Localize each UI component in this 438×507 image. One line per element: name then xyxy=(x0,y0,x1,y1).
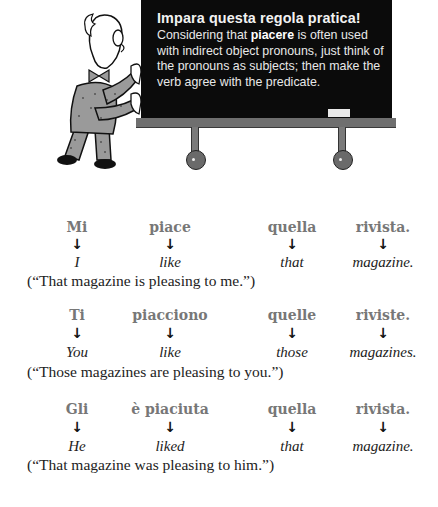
example-1-translation: (“That magazine is pleasing to me.”) xyxy=(27,272,255,290)
body-text-before: Considering that xyxy=(157,28,251,42)
english-word: magazine. xyxy=(323,254,438,271)
chalkboard-ledge xyxy=(136,118,396,128)
wheel-left-icon xyxy=(186,150,206,170)
professor-illustration xyxy=(55,8,145,170)
chalkboard-leg-right xyxy=(338,127,346,152)
english-word: liked xyxy=(110,438,230,455)
italian-word: riviste. xyxy=(323,307,438,323)
chalkboard-body: Considering that piacere is often used w… xyxy=(157,28,389,90)
italian-word: rivista. xyxy=(323,219,438,235)
english-word: like xyxy=(110,344,230,361)
body-text-bold: piacere xyxy=(251,28,294,42)
example-2-translation: (“Those magazines are pleasing to you.”) xyxy=(27,363,284,381)
italian-word: piace xyxy=(110,219,230,235)
down-arrow-icon: ↓ xyxy=(323,419,438,435)
italian-word: è piaciuta xyxy=(110,401,230,417)
chalk-eraser xyxy=(328,109,350,117)
illustration: Impara questa regola pratica! Considerin… xyxy=(0,0,438,200)
down-arrow-icon: ↓ xyxy=(110,325,230,341)
chalkboard-title: Impara questa regola pratica! xyxy=(157,10,389,27)
italian-word: piacciono xyxy=(110,307,230,323)
down-arrow-icon: ↓ xyxy=(323,325,438,341)
english-word: magazines. xyxy=(323,344,438,361)
wheel-right-icon xyxy=(333,150,353,170)
chalkboard-text: Impara questa regola pratica! Considerin… xyxy=(157,10,389,90)
example-3-translation: (“That magazine was pleasing to him.”) xyxy=(27,456,274,474)
english-word: like xyxy=(110,254,230,271)
down-arrow-icon: ↓ xyxy=(110,419,230,435)
down-arrow-icon: ↓ xyxy=(323,236,438,252)
english-word: magazine. xyxy=(323,438,438,455)
italian-word: rivista. xyxy=(323,401,438,417)
down-arrow-icon: ↓ xyxy=(110,236,230,252)
chalkboard-leg-left xyxy=(191,127,199,152)
